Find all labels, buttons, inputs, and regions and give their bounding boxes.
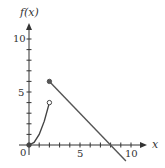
curve-start-closed-dot	[27, 143, 31, 147]
chart: f(x) x 0 5 10 5 10	[0, 0, 165, 168]
y-tick-label-10: 10	[13, 33, 26, 44]
origin-label: 0	[20, 147, 26, 158]
line-path	[49, 81, 126, 160]
x-axis-arrow-icon	[140, 142, 147, 148]
x-axis-label: x	[152, 138, 159, 151]
x-tick-label-5: 5	[77, 148, 83, 159]
line-start-closed-dot	[47, 79, 51, 83]
y-axis-arrow-icon	[26, 23, 32, 30]
y-axis-label: f(x)	[19, 6, 39, 19]
y-tick-label-5: 5	[18, 87, 24, 98]
ticks	[27, 39, 132, 148]
curve-end-open-dot	[47, 100, 51, 104]
x-tick-label-10: 10	[125, 148, 138, 159]
curve-path	[29, 103, 49, 145]
